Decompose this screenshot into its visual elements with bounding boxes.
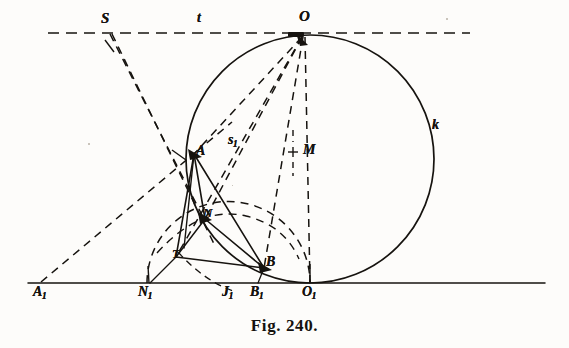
label-A1: A1 [33,285,47,301]
tick-N1 [148,266,149,283]
segment-N-B [205,219,264,268]
label-J1: J1 [222,285,233,301]
label-O1-base: O [302,284,312,299]
solid-lines-group [28,35,545,283]
semicircle-dashed [147,202,310,284]
label-N1-base: N [138,284,148,299]
label-s1: s1 [228,133,238,149]
label-M: M [303,143,315,157]
label-J1-sub: 1 [228,290,233,301]
paper-speck [232,185,233,186]
marker-O [288,32,304,37]
circle-k [186,35,434,283]
label-B: B [266,255,275,269]
label-O1: O1 [302,285,317,301]
tick-S [105,40,114,52]
label-t: t [197,11,201,25]
tick-A [172,150,186,160]
label-O: O [299,9,310,24]
label-N1: N1 [138,285,153,301]
label-S: S [101,11,109,26]
label-k: k [432,118,439,132]
figure-caption: Fig. 240. [0,316,569,336]
ray-O-O1-diameter [305,37,310,283]
label-A1-base: A [33,284,42,299]
segment-T-B [176,257,264,268]
figure-page: S t O k M s1 A N T B A1 N1 J1 B1 O1 Fig.… [0,0,569,348]
label-O1-sub: 1 [312,290,317,301]
label-A: A [196,144,205,158]
ray-O-T [176,37,302,257]
label-B1: B1 [250,285,264,301]
geometry-drawing [0,0,569,348]
ray-A1-A [41,152,196,282]
label-s1-sub: 1 [233,138,238,149]
label-N: N [203,206,212,219]
ray-O-N [205,37,302,219]
label-B1-sub: 1 [259,290,264,301]
paper-speck [446,18,448,20]
paper-speck [88,143,90,145]
label-B1-base: B [250,284,259,299]
label-A1-sub: 1 [42,290,47,301]
label-N1-sub: 1 [148,290,153,301]
label-T: T [172,247,180,260]
